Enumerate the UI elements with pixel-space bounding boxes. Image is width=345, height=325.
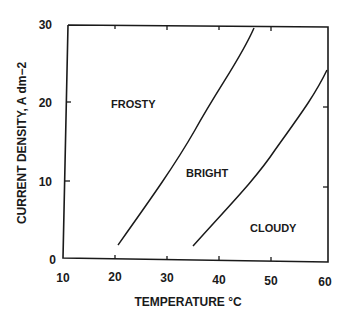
x-axis-label: TEMPERATURE °C <box>134 295 242 309</box>
x-tick-labels: 10 20 30 40 50 60 <box>56 270 332 289</box>
chart: 30 20 10 0 10 20 30 40 50 60 FROSTY BRIG… <box>0 0 345 325</box>
region-label-frosty: FROSTY <box>111 98 156 110</box>
svg-text:10: 10 <box>39 175 53 189</box>
svg-text:20: 20 <box>39 96 53 110</box>
svg-text:30: 30 <box>160 271 174 285</box>
svg-text:0: 0 <box>49 253 56 267</box>
series-frosty-bright-boundary <box>118 28 254 245</box>
svg-text:40: 40 <box>212 273 226 287</box>
series-bright-cloudy-boundary <box>193 70 327 246</box>
svg-text:60: 60 <box>318 275 332 289</box>
x-ticks <box>115 25 271 261</box>
y-axis-label: CURRENT DENSITY, A dm−2 <box>15 62 29 224</box>
svg-text:30: 30 <box>39 18 53 32</box>
region-label-cloudy: CLOUDY <box>250 222 297 234</box>
svg-text:10: 10 <box>56 271 70 285</box>
region-label-bright: BRIGHT <box>186 167 228 179</box>
svg-text:20: 20 <box>108 270 122 284</box>
svg-text:50: 50 <box>264 274 278 288</box>
y-tick-labels: 30 20 10 0 <box>39 18 57 267</box>
